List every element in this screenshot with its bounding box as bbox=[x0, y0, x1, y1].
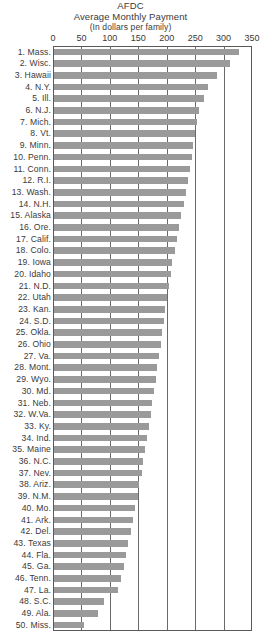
bar-row: 18. Colo. bbox=[0, 245, 261, 257]
bar bbox=[54, 446, 145, 453]
bar-row: 31. Neb. bbox=[0, 397, 261, 409]
category-label: 33. Ky. bbox=[0, 421, 51, 431]
category-label: 9. Minn. bbox=[0, 140, 51, 150]
x-tick-300: 300 bbox=[216, 33, 231, 43]
bar bbox=[54, 353, 159, 360]
category-label: 4. N.Y. bbox=[0, 82, 51, 92]
category-label: 20. Idaho bbox=[0, 269, 51, 279]
x-tick-50: 50 bbox=[76, 33, 86, 43]
bar bbox=[54, 364, 157, 371]
bar-row: 6. N.J. bbox=[0, 105, 261, 117]
bar bbox=[54, 622, 84, 629]
bar-row: 4. N.Y. bbox=[0, 81, 261, 93]
bar-row: 13. Wash. bbox=[0, 186, 261, 198]
bar-row: 5. Ill. bbox=[0, 93, 261, 105]
category-label: 45. Ga. bbox=[0, 561, 51, 571]
bar bbox=[54, 142, 193, 149]
bar-row: 9. Minn. bbox=[0, 140, 261, 152]
bar bbox=[54, 224, 179, 231]
chart-subtitle: Average Monthly Payment bbox=[0, 12, 261, 23]
bar-row: 49. Ala. bbox=[0, 608, 261, 620]
bar-row: 8. Vt. bbox=[0, 128, 261, 140]
category-label: 12. R.I. bbox=[0, 175, 51, 185]
category-label: 36. N.C. bbox=[0, 456, 51, 466]
bar bbox=[54, 306, 165, 313]
bar-row: 10. Penn. bbox=[0, 151, 261, 163]
bar-row: 28. Mont. bbox=[0, 362, 261, 374]
bar bbox=[54, 84, 208, 91]
bar-row: 39. N.M. bbox=[0, 491, 261, 503]
bar bbox=[54, 528, 131, 535]
bar bbox=[54, 329, 162, 336]
x-axis-tick-labels: 050100150200250300350 bbox=[0, 33, 261, 46]
category-label: 35. Maine bbox=[0, 444, 51, 454]
bar bbox=[54, 236, 177, 243]
bar bbox=[54, 423, 149, 430]
chart-title-block: AFDC Average Monthly Payment (In dollars… bbox=[0, 0, 261, 33]
category-label: 2. Wisc. bbox=[0, 58, 51, 68]
bar bbox=[54, 517, 133, 524]
bar-row: 15. Alaska bbox=[0, 210, 261, 222]
bar-row: 20. Idaho bbox=[0, 268, 261, 280]
bar bbox=[54, 49, 239, 56]
bar-row: 12. R.I. bbox=[0, 175, 261, 187]
bar bbox=[54, 341, 161, 348]
bar-row: 29. Wyo. bbox=[0, 374, 261, 386]
bar-row: 1. Mass. bbox=[0, 46, 261, 58]
category-label: 31. Neb. bbox=[0, 398, 51, 408]
bar-row: 33. Ky. bbox=[0, 420, 261, 432]
bar bbox=[54, 458, 143, 465]
chart-container: AFDC Average Monthly Payment (In dollars… bbox=[0, 0, 261, 633]
bar bbox=[54, 177, 188, 184]
category-label: 34. Ind. bbox=[0, 433, 51, 443]
bar-row: 37. Nev. bbox=[0, 467, 261, 479]
category-label: 15. Alaska bbox=[0, 210, 51, 220]
bar-row: 35. Maine bbox=[0, 444, 261, 456]
bar-row: 44. Fla. bbox=[0, 549, 261, 561]
category-label: 25. Okla. bbox=[0, 327, 51, 337]
bar bbox=[54, 575, 121, 582]
bar bbox=[54, 201, 184, 208]
category-label: 26. Ohio bbox=[0, 339, 51, 349]
bar-row: 42. Del. bbox=[0, 526, 261, 538]
x-tick-0: 0 bbox=[50, 33, 55, 43]
bar bbox=[54, 189, 186, 196]
bar bbox=[54, 60, 230, 67]
bar-row: 14. N.H. bbox=[0, 198, 261, 210]
bar-row: 36. N.C. bbox=[0, 456, 261, 468]
bar-row: 32. W.Va. bbox=[0, 409, 261, 421]
bar-rows: 1. Mass.2. Wisc.3. Hawaii4. N.Y.5. Ill.6… bbox=[0, 46, 261, 631]
category-label: 30. Md. bbox=[0, 386, 51, 396]
x-tick-200: 200 bbox=[159, 33, 174, 43]
bar bbox=[54, 107, 199, 114]
category-label: 47. La. bbox=[0, 585, 51, 595]
category-label: 21. N.D. bbox=[0, 281, 51, 291]
bar-row: 45. Ga. bbox=[0, 561, 261, 573]
bar bbox=[54, 411, 151, 418]
category-label: 16. Ore. bbox=[0, 222, 51, 232]
category-label: 13. Wash. bbox=[0, 187, 51, 197]
bar bbox=[54, 388, 154, 395]
category-label: 23. Kan. bbox=[0, 304, 51, 314]
bar bbox=[54, 598, 104, 605]
bar bbox=[54, 271, 171, 278]
category-label: 10. Penn. bbox=[0, 152, 51, 162]
bar bbox=[54, 552, 126, 559]
bar bbox=[54, 119, 197, 126]
chart-subtitle-units: (In dollars per family) bbox=[0, 22, 261, 33]
category-label: 3. Hawaii bbox=[0, 70, 51, 80]
x-tick-250: 250 bbox=[188, 33, 203, 43]
category-label: 24. S.D. bbox=[0, 316, 51, 326]
bar-row: 21. N.D. bbox=[0, 280, 261, 292]
bar bbox=[54, 376, 156, 383]
bar bbox=[54, 72, 217, 79]
bar-row: 22. Utah bbox=[0, 292, 261, 304]
bar bbox=[54, 283, 169, 290]
category-label: 29. Wyo. bbox=[0, 374, 51, 384]
category-label: 44. Fla. bbox=[0, 550, 51, 560]
bar-row: 48. S.C. bbox=[0, 596, 261, 608]
category-label: 37. Nev. bbox=[0, 468, 51, 478]
bar bbox=[54, 481, 139, 488]
bar bbox=[54, 130, 195, 137]
bar-row: 50. Miss. bbox=[0, 619, 261, 631]
